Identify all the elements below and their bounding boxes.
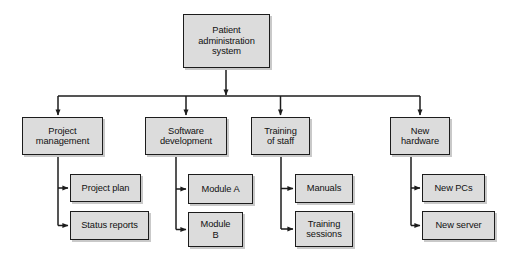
node-status-reports-label: Status reports	[78, 220, 140, 230]
node-manuals-label: Manuals	[304, 183, 344, 193]
node-patient-administration-system-label: Patient administration system	[195, 25, 257, 56]
node-module-a-label: Module A	[199, 184, 243, 194]
node-new-server-label: New server	[432, 220, 484, 230]
node-manuals[interactable]: Manuals	[295, 174, 353, 203]
node-new-hardware[interactable]: New hardware	[390, 117, 450, 155]
wbs-diagram: Patient administration systemProject man…	[0, 0, 511, 259]
node-training-of-staff-label: Training of staff	[261, 126, 299, 147]
node-project-plan-label: Project plan	[79, 183, 133, 193]
node-module-b-label: Module B	[198, 219, 234, 240]
node-software-development-label: Software development	[157, 126, 215, 147]
node-status-reports[interactable]: Status reports	[70, 211, 149, 240]
node-patient-administration-system[interactable]: Patient administration system	[183, 14, 270, 68]
node-new-server[interactable]: New server	[422, 211, 495, 240]
node-project-plan[interactable]: Project plan	[70, 174, 141, 202]
node-project-management-label: Project management	[33, 126, 92, 147]
node-training-of-staff[interactable]: Training of staff	[251, 117, 310, 155]
node-project-management[interactable]: Project management	[22, 117, 103, 155]
node-software-development[interactable]: Software development	[145, 117, 227, 155]
node-module-a[interactable]: Module A	[188, 174, 253, 204]
node-new-hardware-label: New hardware	[398, 126, 442, 147]
node-new-pcs[interactable]: New PCs	[422, 174, 485, 202]
node-module-b[interactable]: Module B	[188, 212, 243, 247]
node-training-sessions[interactable]: Training sessions	[295, 211, 353, 247]
node-training-sessions-label: Training sessions	[303, 219, 344, 240]
node-new-pcs-label: New PCs	[431, 183, 475, 193]
